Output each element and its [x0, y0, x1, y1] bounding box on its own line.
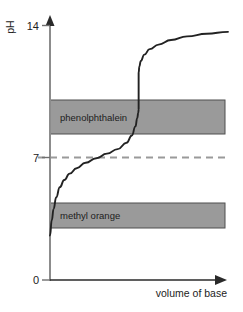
phenolphthalein-band-label: phenolphthalein [60, 112, 127, 123]
titration-curve-figure: phenolphthalein methyl orange 14 7 0 pH [0, 0, 243, 312]
y-tick-label-7: 7 [33, 152, 39, 164]
y-tick-label-0: 0 [33, 274, 39, 286]
indicator-band-methyl-orange: methyl orange [50, 203, 225, 228]
titration-chart-svg: phenolphthalein methyl orange 14 7 0 pH [0, 0, 243, 312]
y-axis-title: pH [4, 20, 16, 33]
x-axis-title: volume of base [156, 287, 227, 299]
methyl-orange-band-label: methyl orange [60, 210, 120, 221]
y-tick-label-14: 14 [27, 20, 39, 32]
